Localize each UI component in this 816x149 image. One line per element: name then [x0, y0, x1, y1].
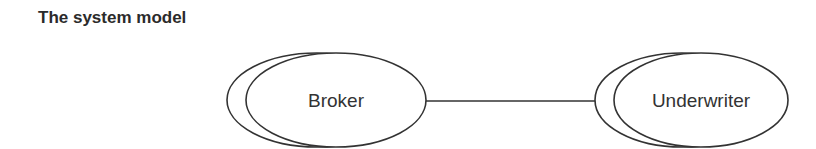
underwriter-label: Underwriter: [652, 90, 751, 111]
node-underwriter: Underwriter: [595, 53, 788, 147]
system-model-diagram: Broker Underwriter: [0, 0, 816, 149]
node-broker: Broker: [227, 53, 426, 147]
broker-label: Broker: [308, 90, 365, 111]
